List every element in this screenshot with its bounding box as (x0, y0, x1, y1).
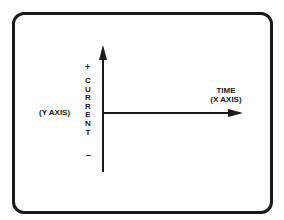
y-axis-quantity-label: C U R R E N T (84, 77, 92, 137)
positive-sign-label: + (85, 63, 90, 72)
x-axis-name-label: (X AXIS) (198, 95, 254, 104)
current-letter: T (86, 129, 91, 138)
x-axis-label-group: TIME (X AXIS) (198, 86, 254, 104)
x-axis-arrowhead (228, 109, 243, 117)
y-axis-arrowhead (99, 45, 107, 60)
y-axis-name-label: (Y AXIS) (39, 109, 70, 117)
negative-sign-label: – (86, 151, 91, 160)
x-axis-quantity-label: TIME (198, 86, 254, 95)
